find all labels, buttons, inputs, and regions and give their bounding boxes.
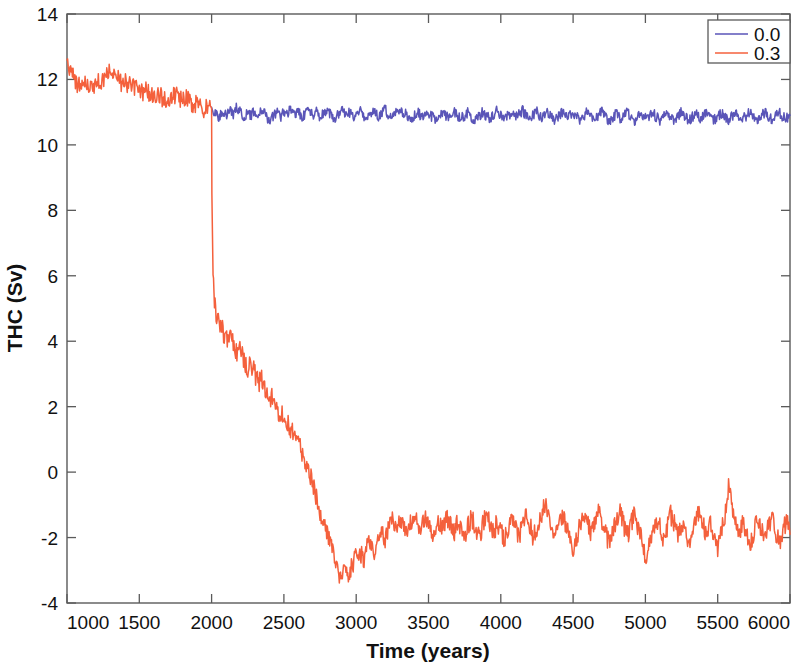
x-tick-label: 2500 [263,612,305,633]
x-tick-label: 4000 [480,612,522,633]
y-tick-label: 4 [47,331,58,352]
y-tick-label: 6 [47,266,58,287]
y-tick-label: 2 [47,397,58,418]
x-axis-label: Time (years) [366,639,489,662]
x-tick-label: 2000 [190,612,232,633]
legend[interactable]: 0.00.3 [708,20,790,64]
legend-label-0-3: 0.3 [754,43,780,64]
x-tick-label: 1000 [67,612,109,633]
y-tick-label: 8 [47,200,58,221]
y-tick-label: -4 [41,593,58,614]
x-tick-label: 6000 [748,612,790,633]
y-tick-label: 14 [37,4,59,25]
x-tick-label: 5000 [624,612,666,633]
y-axis-label: THC (Sv) [3,264,26,353]
figure-background [0,0,811,668]
x-tick-label: 3000 [335,612,377,633]
x-tick-label: 5500 [697,612,739,633]
y-tick-label: 0 [47,462,58,483]
y-tick-label: -2 [41,528,58,549]
x-tick-label: 3500 [407,612,449,633]
thc-timeseries-chart: 1000150020002500300035004000450050005500… [0,0,811,668]
x-tick-label: 4500 [552,612,594,633]
legend-label-0-0: 0.0 [754,24,780,45]
x-tick-label: 1500 [118,612,160,633]
y-tick-label: 12 [37,69,58,90]
y-tick-label: 10 [37,135,58,156]
